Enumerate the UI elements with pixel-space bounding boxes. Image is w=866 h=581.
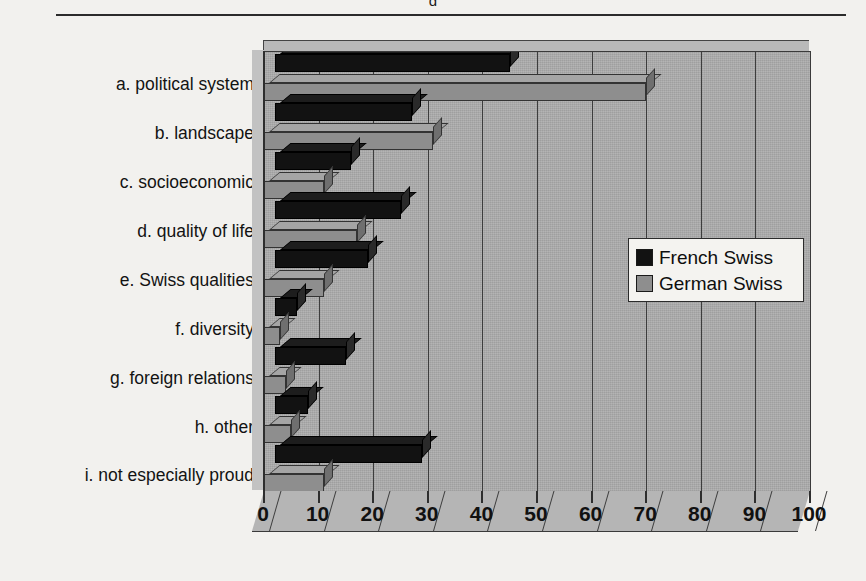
gridline-50 (537, 52, 538, 492)
tick-label-80: 80 (688, 503, 711, 524)
tick-label-50: 50 (524, 503, 547, 524)
chart-legend: French Swiss German Swiss (628, 238, 804, 302)
bar-side-face (346, 332, 355, 360)
bar-side-face (324, 459, 333, 487)
bar-d-french-swiss (275, 201, 401, 219)
bar-front-face (264, 376, 286, 394)
bar-side-face (291, 410, 300, 438)
bar-side-face (433, 117, 442, 145)
bar-front-face (275, 250, 368, 268)
bar-top-face (280, 94, 427, 103)
category-label-h: h. other (195, 419, 254, 437)
tick-label-30: 30 (415, 503, 438, 524)
bar-front-face (275, 396, 308, 414)
category-label-d: d. quality of life (137, 223, 254, 241)
bar-a-french-swiss (275, 54, 510, 72)
bar-side-face (401, 186, 410, 214)
bar-front-face (275, 152, 351, 170)
bar-front-face (264, 474, 324, 492)
tick-label-20: 20 (361, 503, 384, 524)
bar-front-face (275, 103, 412, 121)
bar-side-face (308, 381, 317, 409)
bar-side-face (357, 215, 366, 243)
tick-label-40: 40 (470, 503, 493, 524)
bar-front-face (275, 347, 346, 365)
bar-top-face (269, 416, 307, 425)
category-axis-labels: a. political systemb. landscapec. socioe… (20, 45, 258, 490)
category-label-a: a. political system (116, 76, 254, 94)
bar-top-face (280, 436, 438, 445)
category-label-i: i. not especially proud (85, 467, 254, 485)
gridline-40 (482, 52, 483, 492)
bar-side-face (324, 264, 333, 292)
bar-g-french-swiss (275, 347, 346, 365)
category-label-f: f. diversity (175, 321, 254, 339)
category-label-c: c. socioeconomic (120, 174, 254, 192)
gridline-30 (428, 52, 429, 492)
category-label-b: b. landscape (155, 125, 254, 143)
bar-top-face (269, 74, 662, 83)
category-label-g: g. foreign relations (110, 370, 254, 388)
bar-front-face (275, 445, 422, 463)
value-axis-tick-labels: 0102030405060708090100 (252, 503, 852, 533)
tick-label-60: 60 (579, 503, 602, 524)
legend-label-french-swiss: French Swiss (659, 248, 773, 267)
bar-g-german-swiss (264, 376, 286, 394)
value-axis-line (263, 51, 265, 491)
bar-front-face (275, 201, 401, 219)
tick-label-90: 90 (743, 503, 766, 524)
bar-h-french-swiss (275, 396, 308, 414)
bar-c-french-swiss (275, 152, 351, 170)
tick-label-0: 0 (257, 503, 269, 524)
legend-item-french-swiss: French Swiss (636, 244, 796, 270)
bar-e-french-swiss (275, 250, 368, 268)
gridline-100 (810, 52, 811, 492)
bar-side-face (324, 166, 333, 194)
bar-chart: a. political systemb. landscapec. socioe… (0, 0, 866, 581)
bar-side-face (510, 51, 519, 67)
bar-front-face (264, 327, 280, 345)
bar-front-face (275, 54, 510, 72)
category-label-e: e. Swiss qualities (120, 272, 254, 290)
tick-label-10: 10 (306, 503, 329, 524)
bar-f-german-swiss (264, 327, 280, 345)
gridline-60 (592, 52, 593, 492)
bar-top-face (269, 123, 449, 132)
gray-swatch-icon (636, 275, 653, 292)
bar-b-french-swiss (275, 103, 412, 121)
tick-label-100: 100 (791, 503, 826, 524)
bar-i-german-swiss (264, 474, 324, 492)
bar-top-face (280, 192, 416, 201)
bar-side-face (286, 361, 295, 389)
bar-side-face (280, 312, 289, 340)
bar-side-face (646, 68, 655, 96)
black-swatch-icon (636, 249, 653, 266)
bar-i-french-swiss (275, 445, 422, 463)
legend-item-german-swiss: German Swiss (636, 270, 796, 296)
tick-label-70: 70 (634, 503, 657, 524)
legend-label-german-swiss: German Swiss (659, 274, 783, 293)
